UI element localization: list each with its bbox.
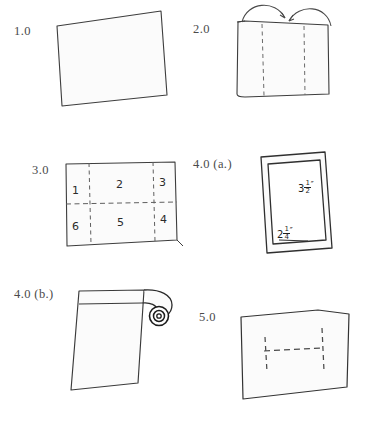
step-label-1: 1.0 <box>14 24 31 39</box>
step-panel-3: 3.0 1 2 3 6 5 4 <box>0 140 185 280</box>
rolled-edge-curl <box>142 290 172 326</box>
grid-cell-6-number: 6 <box>72 220 79 233</box>
fold-arrow-left <box>242 5 285 22</box>
paper-rectangle-h-creases <box>241 310 349 399</box>
grid-cell-3-number: 3 <box>159 176 166 189</box>
step-panel-4a: 4.0 (a.) 312″ 214″ <box>185 140 369 280</box>
height-dimension-label: 312″ <box>298 180 314 194</box>
step-1-drawing <box>0 0 185 140</box>
curl-inner-circle <box>157 314 161 318</box>
step-panel-4b: 4.0 (b.) <box>0 278 185 423</box>
grid-cell-1-number: 1 <box>72 184 79 197</box>
grid-cell-4-number: 4 <box>160 213 167 226</box>
width-dimension-label: 214″ <box>277 226 293 240</box>
step-label-4b: 4.0 (b.) <box>14 287 54 302</box>
step-5-drawing <box>185 278 369 423</box>
step-panel-5: 5.0 <box>185 278 369 423</box>
step-panel-2: 2.0 <box>185 0 369 140</box>
step-label-4a: 4.0 (a.) <box>193 157 232 172</box>
step-label-5: 5.0 <box>199 310 216 325</box>
step-panel-1: 1.0 <box>0 0 185 140</box>
paper-rectangle-plain <box>57 11 167 106</box>
grid-cell-2-number: 2 <box>116 178 123 191</box>
paper-rectangle-with-folds <box>237 21 329 97</box>
step-2-drawing <box>185 0 369 140</box>
rolled-paper-body <box>71 290 144 390</box>
step-label-2: 2.0 <box>193 22 210 37</box>
step-label-3: 3.0 <box>32 163 49 178</box>
grid-cell-5-number: 5 <box>117 216 124 229</box>
step-3-drawing <box>0 140 185 280</box>
instruction-sheet: 1.0 2.0 <box>0 0 369 423</box>
